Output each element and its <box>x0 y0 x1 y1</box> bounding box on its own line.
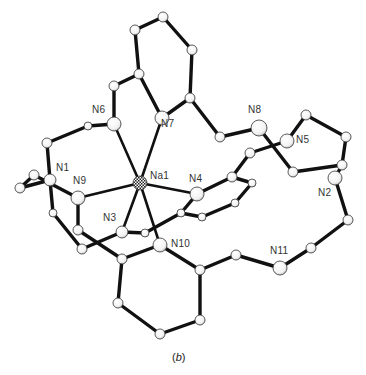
bond-Na1-N6 <box>114 124 140 183</box>
atom-c11 <box>341 132 351 142</box>
atom-c15 <box>227 172 237 182</box>
atom-c3 <box>187 45 197 55</box>
atom-na1 <box>133 176 147 190</box>
atom-c14 <box>245 148 255 158</box>
bond-C7-C8 <box>47 126 88 143</box>
atom-c22 <box>15 183 25 193</box>
bond-C1-C3 <box>163 17 192 50</box>
atom-label-n2: N2 <box>318 187 331 198</box>
bond-C4-C9 <box>190 98 220 137</box>
atom-label-na1: Na1 <box>150 170 169 181</box>
atom-label-n6: N6 <box>92 104 105 115</box>
atom-c1 <box>158 12 168 22</box>
atom-c31 <box>231 250 241 260</box>
bond-C5-N7 <box>139 74 162 118</box>
atom-c25 <box>77 244 87 254</box>
atom-n4 <box>190 187 204 201</box>
bond-C11-C10 <box>306 115 346 137</box>
atom-c8 <box>42 138 52 148</box>
atom-c33 <box>343 215 353 225</box>
atom-n6 <box>107 117 121 131</box>
bond-C33-C32 <box>311 220 348 248</box>
atom-n1 <box>44 174 56 186</box>
atom-c19 <box>177 209 185 217</box>
bond-C28-C27 <box>118 303 160 334</box>
atom-c7 <box>84 122 92 130</box>
atom-c16 <box>248 179 256 187</box>
atom-n2 <box>328 171 342 185</box>
atom-c5 <box>134 69 144 79</box>
atom-c29 <box>195 315 205 325</box>
atom-c9 <box>215 132 225 142</box>
molecular-structure-figure: Na1N1N2N3N4N5N6N7N8N9N10N11 (b) <box>0 0 366 375</box>
atom-c6 <box>109 81 119 91</box>
atom-label-n11: N11 <box>270 245 288 256</box>
atom-c4 <box>185 93 195 103</box>
atom-n5 <box>280 134 294 148</box>
bond-C31-C30 <box>200 255 236 270</box>
atom-c12 <box>337 160 347 170</box>
atom-n10 <box>153 238 167 252</box>
bond-Na1-N9 <box>78 183 140 198</box>
atom-n9 <box>71 191 85 205</box>
atom-c18 <box>198 213 206 221</box>
atom-layer <box>15 12 353 339</box>
atom-c24 <box>73 225 83 235</box>
atom-c28 <box>155 329 165 339</box>
atom-c13 <box>288 167 298 177</box>
atom-n11 <box>273 261 287 275</box>
atom-c32 <box>306 243 316 253</box>
bond-Na1-N3 <box>122 183 140 232</box>
bond-C27-C26 <box>118 259 122 303</box>
atom-c10 <box>301 110 311 120</box>
bond-C3-C4 <box>190 50 192 98</box>
atom-label-n3: N3 <box>103 212 116 223</box>
atom-c17 <box>231 199 239 207</box>
bond-C29-C28 <box>160 320 200 334</box>
atom-n8 <box>251 120 267 136</box>
figure-caption: (b) <box>172 351 185 363</box>
atom-label-n10: N10 <box>171 238 190 249</box>
bond-Na1-N4 <box>140 183 197 194</box>
bond-C2-C5 <box>135 30 139 74</box>
atom-label-n4: N4 <box>189 173 202 184</box>
atom-label-n8: N8 <box>248 104 261 115</box>
caption-letter: b <box>176 351 182 363</box>
atom-c2 <box>130 25 140 35</box>
atom-c23 <box>49 209 57 217</box>
molecule-drawing <box>0 0 366 375</box>
atom-label-n7: N7 <box>161 118 174 129</box>
atom-c21 <box>29 170 39 180</box>
atom-c30 <box>195 265 205 275</box>
atom-c27 <box>113 298 123 308</box>
atom-c26 <box>117 254 127 264</box>
atom-n3 <box>116 226 128 238</box>
bond-C17-C18 <box>202 203 235 217</box>
atom-c20 <box>141 229 149 237</box>
atom-label-n1: N1 <box>56 162 69 173</box>
atom-label-n5: N5 <box>296 134 309 145</box>
atom-label-n9: N9 <box>73 175 86 186</box>
bond-layer <box>20 17 348 334</box>
